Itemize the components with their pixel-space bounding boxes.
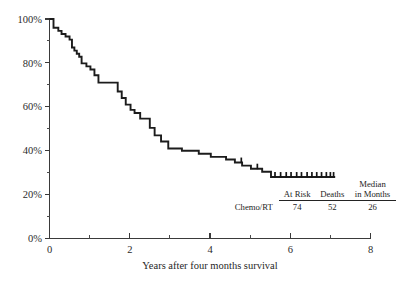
summary-header-row: At Risk Deaths in Months [224,190,396,201]
x-tick-label-group: 02468 [47,244,373,255]
median-header-line2: in Months [349,190,396,201]
at-risk-value: 74 [279,201,316,214]
censoring-marks-group [241,158,333,178]
plot-canvas: 100%80%60%40%20%0% 02468 Years after fou… [0,0,412,289]
x-tick-label: 6 [288,244,293,255]
survival-curve-figure: 100%80%60%40%20%0% 02468 Years after fou… [0,0,412,289]
y-tick-label-group: 100%80%60%40%20%0% [18,14,43,245]
y-tick-group [45,19,50,239]
y-tick-label: 60% [23,101,43,112]
kaplan-meier-curve-chemo-rt [50,19,336,177]
x-tick-group [50,233,371,238]
table-row: Chemo/RT 74 52 26 [224,201,396,214]
group-label-chemo-rt: Chemo/RT [224,201,279,214]
y-tick-label: 80% [23,58,43,69]
x-axis-title: Years after four months survival [142,260,277,271]
at-risk-header: At Risk [279,190,316,201]
x-tick-label: 2 [127,244,132,255]
y-tick-label: 0% [28,233,42,244]
y-tick-label: 100% [18,14,43,25]
median-months-value: 26 [349,201,396,214]
x-tick-label: 4 [207,244,213,255]
risk-summary-table: Median At Risk Deaths in Months Chemo/RT… [224,180,396,214]
summary-corner-blank [224,190,279,201]
x-tick-label: 8 [368,244,373,255]
y-tick-label: 40% [23,145,43,156]
x-tick-label: 0 [47,244,52,255]
y-tick-label: 20% [23,189,43,200]
deaths-header: Deaths [316,190,349,201]
deaths-value: 52 [316,201,349,214]
